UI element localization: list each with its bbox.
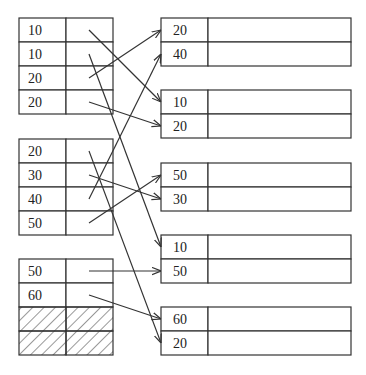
payload-cell bbox=[208, 307, 351, 331]
tuple-row: 40 bbox=[19, 187, 113, 211]
tuple-row: 10 bbox=[19, 18, 113, 42]
key-value: 10 bbox=[28, 47, 42, 62]
right-bucket-r3: 5030 bbox=[161, 163, 351, 211]
tuple-row: 30 bbox=[19, 163, 113, 187]
empty-slot-row bbox=[19, 331, 113, 355]
key-cell bbox=[19, 283, 66, 307]
key-value: 20 bbox=[28, 71, 42, 86]
tuple-row: 20 bbox=[19, 139, 113, 163]
bucket-row: 20 bbox=[161, 331, 351, 355]
tuple-row: 20 bbox=[19, 90, 113, 114]
bucket-row: 50 bbox=[161, 259, 351, 283]
tuple-row: 50 bbox=[19, 211, 113, 235]
key-cell bbox=[19, 307, 66, 331]
tuple-row: 60 bbox=[19, 283, 113, 307]
payload-cell bbox=[208, 18, 351, 42]
tuple-row: 20 bbox=[19, 66, 113, 90]
key-value: 20 bbox=[28, 95, 42, 110]
key-value: 20 bbox=[28, 144, 42, 159]
key-value: 30 bbox=[173, 192, 187, 207]
key-value: 20 bbox=[173, 119, 187, 134]
left-pages: 10102020203040505060 bbox=[19, 18, 113, 355]
key-cell bbox=[19, 90, 66, 114]
payload-cell bbox=[208, 187, 351, 211]
pointer-diagram: 10102020203040505060 2040102050301050602… bbox=[0, 0, 366, 375]
key-cell bbox=[19, 163, 66, 187]
payload-cell bbox=[208, 42, 351, 66]
bucket-row: 20 bbox=[161, 114, 351, 138]
payload-cell bbox=[208, 163, 351, 187]
bucket-row: 40 bbox=[161, 42, 351, 66]
key-value: 50 bbox=[173, 264, 187, 279]
key-value: 20 bbox=[173, 336, 187, 351]
key-value: 40 bbox=[28, 192, 42, 207]
left-page-l2: 20304050 bbox=[19, 139, 113, 235]
right-bucket-r4: 1050 bbox=[161, 235, 351, 283]
payload-cell bbox=[208, 90, 351, 114]
key-cell bbox=[19, 18, 66, 42]
key-value: 30 bbox=[28, 168, 42, 183]
key-cell bbox=[19, 331, 66, 355]
pointer-cell bbox=[66, 307, 113, 331]
tuple-row: 10 bbox=[19, 42, 113, 66]
key-value: 40 bbox=[173, 47, 187, 62]
right-bucket-r5: 6020 bbox=[161, 307, 351, 355]
empty-slot-row bbox=[19, 307, 113, 331]
payload-cell bbox=[208, 114, 351, 138]
key-value: 10 bbox=[173, 240, 187, 255]
payload-cell bbox=[208, 259, 351, 283]
key-cell bbox=[19, 259, 66, 283]
bucket-row: 10 bbox=[161, 235, 351, 259]
key-cell bbox=[19, 66, 66, 90]
right-buckets: 20401020503010506020 bbox=[161, 18, 351, 355]
key-value: 50 bbox=[173, 168, 187, 183]
key-value: 50 bbox=[28, 264, 42, 279]
key-cell bbox=[19, 139, 66, 163]
bucket-row: 20 bbox=[161, 18, 351, 42]
left-page-l3: 5060 bbox=[19, 259, 113, 355]
bucket-row: 50 bbox=[161, 163, 351, 187]
pointer-cell bbox=[66, 331, 113, 355]
key-cell bbox=[19, 211, 66, 235]
key-value: 50 bbox=[28, 216, 42, 231]
right-bucket-r1: 2040 bbox=[161, 18, 351, 66]
payload-cell bbox=[208, 331, 351, 355]
key-value: 60 bbox=[173, 312, 187, 327]
bucket-row: 60 bbox=[161, 307, 351, 331]
key-cell bbox=[19, 187, 66, 211]
key-cell bbox=[19, 42, 66, 66]
payload-cell bbox=[208, 235, 351, 259]
key-value: 60 bbox=[28, 288, 42, 303]
right-bucket-r2: 1020 bbox=[161, 90, 351, 138]
bucket-row: 30 bbox=[161, 187, 351, 211]
bucket-row: 10 bbox=[161, 90, 351, 114]
key-value: 20 bbox=[173, 23, 187, 38]
left-page-l1: 10102020 bbox=[19, 18, 113, 114]
key-value: 10 bbox=[28, 23, 42, 38]
key-value: 10 bbox=[173, 95, 187, 110]
